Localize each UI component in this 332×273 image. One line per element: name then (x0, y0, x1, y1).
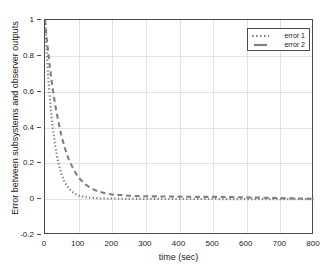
x-tick-label: 500 (205, 239, 218, 248)
x-tick-label: 300 (138, 239, 151, 248)
chart-figure: -0.200.20.40.60.81 010020030040050060070… (0, 0, 332, 273)
y-tick-label: -0.2 (20, 230, 34, 239)
y-tick-mark (37, 198, 41, 199)
legend-label-error-2: error 2 (270, 40, 306, 49)
y-tick-mark (37, 19, 41, 20)
legend-swatch-dashed (251, 41, 270, 49)
legend-item-error-2[interactable]: error 2 (251, 40, 306, 49)
y-tick-mark (37, 55, 41, 56)
x-tick-label: 700 (273, 239, 286, 248)
y-tick-mark (37, 234, 41, 235)
data-curves (45, 20, 314, 235)
x-axis-tick-labels: 0100200300400500600700800 (44, 237, 313, 249)
x-tick-label: 800 (306, 239, 319, 248)
x-tick-label: 100 (71, 239, 84, 248)
legend-item-error-1[interactable]: error 1 (251, 31, 306, 40)
y-tick-label: 0.6 (23, 86, 34, 95)
y-axis-title: Error between subsystems and observer ou… (10, 11, 20, 226)
y-tick-label: 1 (30, 15, 34, 24)
y-tick-mark (37, 91, 41, 92)
x-tick-label: 200 (105, 239, 118, 248)
x-tick-label: 600 (239, 239, 252, 248)
y-tick-label: 0 (30, 194, 34, 203)
y-axis-tick-labels: -0.200.20.40.60.81 (0, 19, 41, 234)
legend-swatch-dotted (251, 32, 270, 40)
y-tick-label: 0.4 (23, 122, 34, 131)
x-tick-label: 400 (172, 239, 185, 248)
y-tick-label: 0.8 (23, 50, 34, 59)
plot-area (44, 19, 313, 234)
x-axis-title: time (sec) (44, 252, 313, 262)
y-tick-label: 0.2 (23, 158, 34, 167)
x-tick-label: 0 (42, 239, 46, 248)
legend[interactable]: error 1 error 2 (247, 28, 310, 51)
legend-label-error-1: error 1 (270, 31, 306, 40)
y-tick-mark (37, 127, 41, 128)
y-tick-mark (37, 162, 41, 163)
